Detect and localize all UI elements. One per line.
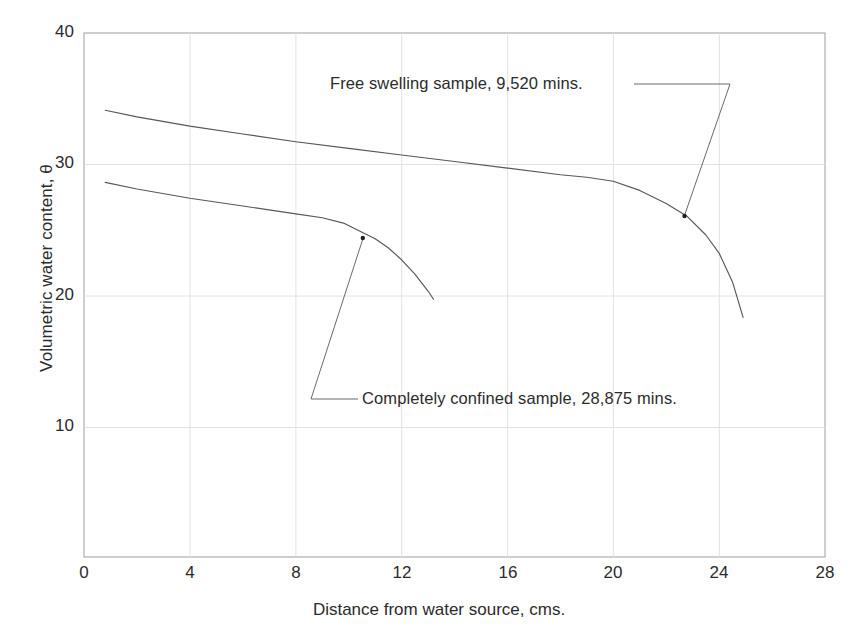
x-tick-label-4: 4 xyxy=(170,563,210,583)
y-tick-label-10: 10 xyxy=(30,416,74,436)
leader-dot-free-swelling xyxy=(682,214,686,218)
y-tick-label-40: 40 xyxy=(30,22,74,42)
x-tick-label-28: 28 xyxy=(805,563,845,583)
annotation-completely-confined: Completely confined sample, 28,875 mins. xyxy=(362,389,677,408)
x-tick-label-16: 16 xyxy=(488,563,528,583)
x-tick-label-24: 24 xyxy=(699,563,739,583)
plot-frame xyxy=(84,33,825,557)
x-axis-label-text: Distance from water source, cms. xyxy=(313,600,565,620)
chart-figure: Volumetric water content, θ 40 30 20 10 … xyxy=(0,0,854,636)
annotation-free-swelling: Free swelling sample, 9,520 mins. xyxy=(330,74,583,93)
leader-dot-completely-confined xyxy=(361,236,365,240)
x-axis-label: Distance from water source, cms. xyxy=(0,600,854,620)
y-axis-label-text: Volumetric water content, θ xyxy=(37,164,56,372)
plot-canvas xyxy=(0,0,854,636)
x-tick-label-8: 8 xyxy=(276,563,316,583)
x-tick-label-20: 20 xyxy=(593,563,633,583)
y-tick-label-30: 30 xyxy=(30,153,74,173)
y-tick-label-20: 20 xyxy=(30,285,74,305)
x-tick-label-12: 12 xyxy=(382,563,422,583)
x-tick-label-0: 0 xyxy=(64,563,104,583)
